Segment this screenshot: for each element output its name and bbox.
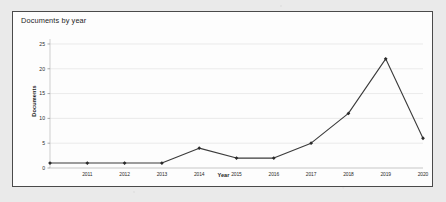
gridlines: [50, 44, 423, 168]
data-point-2020[interactable]: [421, 136, 425, 140]
y-tick-label-25: 25: [29, 41, 45, 47]
data-point-2016[interactable]: [272, 156, 276, 160]
series-line-documents: [50, 59, 423, 163]
documents-by-year-chart-card: Documents by year 0510152025 20112012201…: [12, 11, 433, 187]
y-axis-title: Documents: [31, 71, 37, 131]
line-chart-svg: [13, 12, 434, 188]
data-point-2014[interactable]: [197, 146, 201, 150]
y-tick-label-5: 5: [29, 140, 45, 146]
plot-area: 0510152025 20112012201320142015201620172…: [13, 12, 432, 186]
data-point-2011[interactable]: [85, 161, 89, 165]
x-axis-title: Year: [13, 172, 434, 178]
axes: [48, 39, 51, 168]
screenshot-root: Documents by year 0510152025 20112012201…: [0, 0, 446, 202]
data-point-2012[interactable]: [123, 161, 127, 165]
data-point-2013[interactable]: [160, 161, 164, 165]
data-point-2010[interactable]: [48, 161, 52, 165]
y-tick-label-0: 0: [29, 165, 45, 171]
data-point-markers: [48, 57, 425, 165]
data-point-2015[interactable]: [235, 156, 239, 160]
